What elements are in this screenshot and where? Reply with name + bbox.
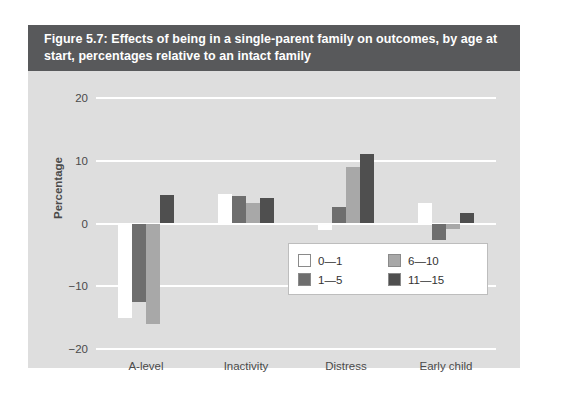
figure-title: Figure 5.7: Effects of being in a single… xyxy=(44,31,504,65)
bar xyxy=(432,224,446,240)
bar xyxy=(146,224,160,324)
y-axis-label: Percentage xyxy=(52,157,64,219)
legend-label: 0—1 xyxy=(318,255,342,267)
y-axis-tick-label: 10 xyxy=(75,155,88,167)
chart-panel: Percentage 20100−10−20A-levelInactivityD… xyxy=(28,71,520,368)
legend-swatch-icon xyxy=(388,273,401,286)
legend-item-0: 0—1 xyxy=(298,254,388,267)
y-axis-tick-label: 0 xyxy=(82,218,88,230)
bar xyxy=(318,224,332,230)
y-axis-tick-label: −10 xyxy=(68,280,88,292)
bar xyxy=(160,195,174,224)
bar xyxy=(260,198,274,224)
bar xyxy=(332,207,346,223)
y-axis-tick-label: 20 xyxy=(75,92,88,104)
bar xyxy=(446,224,460,229)
gridline xyxy=(96,160,496,162)
legend-swatch-icon xyxy=(298,254,311,267)
legend-item-3: 11—15 xyxy=(388,273,478,286)
bar xyxy=(418,203,432,223)
x-axis-category-label: Inactivity xyxy=(224,360,269,372)
x-axis-category-label: Early child xyxy=(419,360,472,372)
bar xyxy=(346,167,360,223)
bar xyxy=(232,196,246,224)
bar xyxy=(118,224,132,318)
bar xyxy=(132,224,146,302)
chart-legend: 0—1 6—10 1—5 11—15 xyxy=(288,243,488,295)
legend-row: 1—5 11—15 xyxy=(298,270,478,289)
legend-swatch-icon xyxy=(388,254,401,267)
y-axis-tick-label: −20 xyxy=(68,343,88,355)
gridline xyxy=(96,348,496,350)
bar xyxy=(218,194,232,223)
x-axis-category-label: A-level xyxy=(128,360,163,372)
bar xyxy=(360,154,374,223)
bar xyxy=(246,203,260,224)
legend-label: 11—15 xyxy=(408,274,444,286)
plot-area: 20100−10−20A-levelInactivityDistressEarl… xyxy=(96,98,496,349)
gridline xyxy=(96,97,496,99)
legend-swatch-icon xyxy=(298,273,311,286)
legend-item-2: 6—10 xyxy=(388,254,478,267)
legend-row: 0—1 6—10 xyxy=(298,251,478,270)
figure-container: Figure 5.7: Effects of being in a single… xyxy=(0,0,568,398)
figure-title-bar: Figure 5.7: Effects of being in a single… xyxy=(28,25,520,71)
bar xyxy=(460,213,474,223)
legend-item-1: 1—5 xyxy=(298,273,388,286)
x-axis-category-label: Distress xyxy=(325,360,367,372)
legend-label: 6—10 xyxy=(408,255,439,267)
legend-label: 1—5 xyxy=(318,274,342,286)
